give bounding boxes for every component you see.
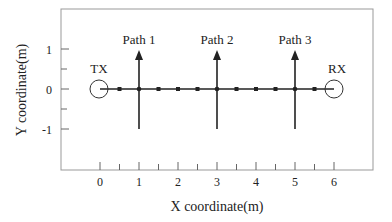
x-tick-labels: 0 1 2 3 4 5 6 X coordinate(m) [97, 175, 337, 215]
path-label: Path 3 [279, 32, 312, 47]
path-3: Path 3 [279, 32, 312, 129]
x-tick-label: 4 [253, 175, 259, 189]
x-axis [100, 162, 334, 170]
y-tick-label: 0 [46, 83, 52, 97]
tx-label: TX [90, 61, 108, 76]
x-tick-label: 6 [331, 175, 337, 189]
x-tick-label: 1 [136, 175, 142, 189]
y-tick-label: 1 [46, 43, 52, 57]
rx-label: RX [328, 61, 347, 76]
x-tick-label: 3 [214, 175, 220, 189]
arrow-up-icon [213, 50, 221, 60]
arrow-up-icon [135, 50, 143, 60]
path-2: Path 2 [201, 32, 234, 129]
x-tick-label: 5 [292, 175, 298, 189]
y-axis-label: Y coordinate(m) [14, 43, 30, 136]
y-tick-label: -1 [42, 123, 52, 137]
x-tick-label: 2 [175, 175, 181, 189]
path-label: Path 2 [201, 32, 234, 47]
path-1: Path 1 [123, 32, 156, 129]
path-label: Path 1 [123, 32, 156, 47]
x-tick-label: 0 [97, 175, 103, 189]
arrow-up-icon [291, 50, 299, 60]
x-axis-label: X coordinate(m) [171, 199, 264, 215]
diagram-canvas: 1 0 -1 Y coordinate(m) 0 1 2 3 4 5 6 X c… [0, 0, 392, 222]
